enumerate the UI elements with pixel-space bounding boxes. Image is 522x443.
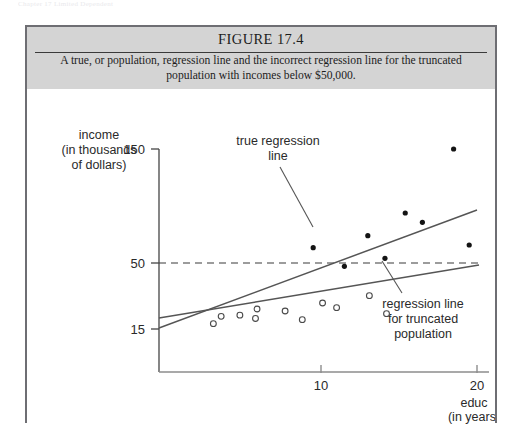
truncated-regression-line-leader [382, 261, 402, 293]
data-point-filled [365, 233, 370, 238]
figure-number-label: FIGURE 17.4 [27, 31, 495, 48]
data-point-open [254, 306, 260, 312]
data-point-open [210, 321, 216, 327]
y-axis-title-line2: (in thousands [61, 143, 136, 157]
y-axis-title-line1: income [79, 128, 119, 142]
data-point-open [384, 311, 390, 317]
series-above-threshold [311, 146, 472, 269]
data-point-filled [420, 220, 425, 225]
true-regression-line-annotation-line2: line [268, 149, 288, 163]
y-tick-label-15: 15 [131, 322, 145, 337]
figure-caption-band: FIGURE 17.4 A true, or population, regre… [27, 27, 495, 89]
x-tick-label-10: 10 [314, 378, 328, 393]
figure-caption-text: A true, or population, regression line a… [36, 54, 486, 83]
x-axis-title-line1: educ [460, 396, 487, 410]
truncated-regression-annotation-line1: regression line [382, 297, 463, 311]
true-regression-line-leader [280, 167, 313, 227]
data-point-filled [382, 256, 387, 261]
data-point-filled [311, 245, 316, 250]
data-point-open [299, 317, 305, 323]
data-point-open [320, 300, 326, 306]
data-point-filled [467, 242, 472, 247]
data-point-open [218, 313, 224, 319]
scatter-plot-svg: 150 50 15 10 20 income (in thousands of … [27, 89, 495, 425]
true-regression-line-annotation-line1: true regression [236, 134, 319, 148]
data-point-open [366, 293, 372, 299]
truncated-regression-annotation-line2: for truncated [388, 312, 458, 326]
caption-divider [35, 52, 487, 53]
x-tick-label-20: 20 [470, 378, 484, 393]
data-point-open [237, 312, 243, 318]
figure-box: FIGURE 17.4 A true, or population, regre… [25, 25, 497, 423]
series-truncated-sample [210, 293, 389, 327]
data-point-filled [451, 146, 456, 151]
y-axis-title-line3: of dollars) [72, 158, 127, 172]
data-point-open [334, 305, 340, 311]
data-point-open [282, 308, 288, 314]
data-point-open [253, 316, 259, 322]
y-tick-label-50: 50 [131, 256, 145, 271]
x-axis-title-line2: (in years) [448, 410, 495, 424]
data-point-filled [342, 264, 347, 269]
plot-area: 150 50 15 10 20 income (in thousands of … [27, 89, 495, 425]
page-running-header: Chapter 17 Limited Dependent [18, 1, 153, 8]
data-point-filled [403, 210, 408, 215]
truncated-regression-annotation-line3: population [394, 327, 452, 341]
